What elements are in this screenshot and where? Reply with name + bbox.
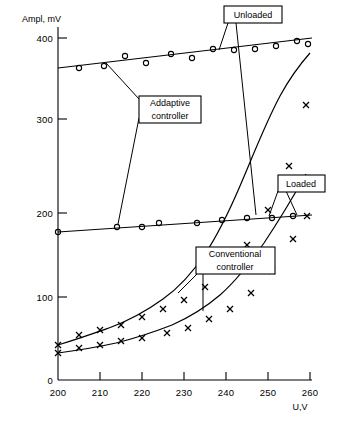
data-point: [76, 65, 81, 70]
x-axis-title: U,V: [292, 402, 307, 412]
data-point: [227, 306, 233, 312]
y-tick-label-400: 400: [37, 33, 53, 44]
callout-addaptive-label-line2: controller: [151, 111, 188, 121]
data-point: [294, 38, 299, 43]
series-adaptive-unloaded: [58, 38, 312, 71]
data-point: [139, 314, 145, 320]
x-tick-label-200: 200: [50, 387, 66, 398]
y-tick-label-300: 300: [37, 114, 53, 125]
data-point: [206, 316, 212, 322]
y-axis-ticks: [58, 38, 67, 297]
data-point: [185, 325, 191, 331]
data-point: [97, 342, 103, 348]
trend-line-adaptive-unloaded: [58, 38, 312, 68]
data-point: [303, 102, 309, 108]
data-point: [252, 46, 257, 51]
data-point: [273, 43, 278, 48]
trend-line-adaptive-loaded: [58, 215, 312, 232]
x-tick-label-240: 240: [218, 387, 234, 398]
data-point: [160, 306, 166, 312]
data-point: [181, 297, 187, 303]
x-tick-label-210: 210: [92, 387, 108, 398]
series-adaptive-loaded: [55, 213, 312, 234]
y-tick-label-100: 100: [37, 292, 53, 303]
data-point: [143, 60, 148, 65]
data-point: [189, 55, 194, 60]
data-point: [305, 41, 310, 46]
data-point: [114, 224, 119, 229]
marker-group-conventional-unloaded: [55, 102, 309, 348]
x-tick-label-260: 260: [302, 387, 318, 398]
data-point: [231, 47, 236, 52]
data-point: [164, 330, 170, 336]
chart-canvas: 400 300 200 100 0 200 210 220 230 240 25…: [0, 0, 338, 423]
x-tick-label-220: 220: [134, 387, 150, 398]
callout-conventional-label-line2: controller: [216, 262, 253, 272]
callout-conventional-label-line1: Conventional: [209, 249, 262, 259]
callout-loaded-label: Loaded: [286, 179, 316, 189]
marker-group-adaptive-unloaded: [76, 38, 310, 70]
callout-addaptive-controller[interactable]: Addaptive controller: [139, 96, 201, 123]
data-point: [248, 290, 254, 296]
y-tick-label-200: 200: [37, 208, 53, 219]
x-tick-label-230: 230: [176, 387, 192, 398]
callout-conventional-controller[interactable]: Conventional controller: [196, 247, 275, 274]
leader-addaptive-b: [118, 118, 139, 224]
y-tick-label-0: 0: [48, 375, 53, 386]
x-axis-ticks: [100, 372, 310, 380]
leader-loaded-b: [286, 191, 297, 215]
callout-addaptive-label-line1: Addaptive: [150, 98, 190, 108]
data-point: [101, 63, 106, 68]
callout-unloaded[interactable]: Unloaded: [224, 6, 282, 23]
chart-figure: 400 300 200 100 0 200 210 220 230 240 25…: [0, 0, 338, 423]
leader-unloaded-b: [236, 23, 256, 215]
y-axis-title: Ampl, mV: [22, 14, 61, 24]
data-point: [122, 53, 127, 58]
callout-loaded[interactable]: Loaded: [278, 175, 325, 192]
leader-loaded-a: [269, 191, 278, 216]
data-point: [290, 236, 296, 242]
marker-group-conventional-loaded: [55, 213, 310, 356]
data-point: [286, 163, 292, 169]
leader-addaptive-a: [106, 63, 139, 99]
leader-unloaded-a: [219, 23, 228, 50]
data-point: [76, 332, 82, 338]
x-tick-label-250: 250: [260, 387, 276, 398]
callout-unloaded-label: Unloaded: [234, 10, 273, 20]
